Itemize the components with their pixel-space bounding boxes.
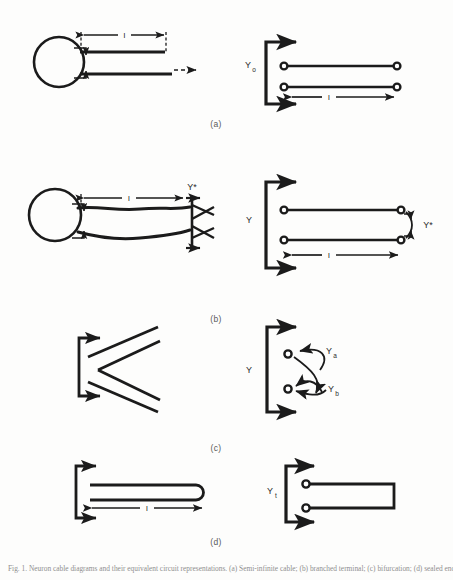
terminal-node-lower-left-a (281, 84, 288, 91)
soma-circle-b (29, 189, 81, 241)
admittance-label-a: Y (245, 60, 251, 70)
port-bracket-d (286, 466, 303, 522)
length-label-a: l (124, 31, 126, 40)
length-label-d: l (146, 504, 148, 513)
panel-label-b: (b) (210, 314, 222, 324)
branch-upper-inner-c (98, 341, 160, 370)
panel-c: Y Y a Y b (c) (79, 327, 339, 453)
panel-b: Y* l Y (29, 182, 433, 324)
length-label-b: l (128, 194, 130, 203)
admittance-label-d: Y (267, 486, 273, 496)
branch-b-sub-c: b (335, 390, 339, 397)
trunk-bracket-d (76, 466, 88, 518)
branch-lower-inner-c (98, 370, 160, 400)
terminal-node-upper-right-b (398, 207, 405, 214)
panel-d: l Y t (d) (76, 466, 394, 547)
panel-b-drawing: Y* l (29, 182, 214, 248)
panel-label-d: (d) (210, 537, 222, 547)
admittance-sub-d: t (275, 492, 277, 499)
panel-d-drawing: l (76, 466, 204, 518)
soma-circle-a (34, 37, 84, 87)
panel-c-drawing (79, 327, 160, 412)
panel-label-c: (c) (210, 443, 221, 453)
panel-b-circuit: Y Y* l (246, 182, 433, 268)
port-bracket-b (266, 182, 285, 268)
terminal-node-lower-right-b (398, 237, 405, 244)
panel-c-circuit: Y Y a Y b (246, 327, 339, 412)
terminal-node-upper-c (284, 350, 291, 357)
panel-a: l Y o l (34, 31, 400, 129)
length-label-circ-a: l (328, 93, 330, 102)
admittance-label-b: Y (246, 215, 252, 225)
cable-sealed-end-d (90, 485, 204, 500)
terminal-node-lower-right-a (394, 84, 401, 91)
figure-container: l Y o l (0, 0, 453, 580)
terminal-node-upper-right-a (394, 63, 401, 70)
figure-caption: Fig. 1. Neuron cable diagrams and their … (8, 564, 453, 573)
figure-caption-strip: Fig. 1. Neuron cable diagrams and their … (0, 564, 453, 580)
figure-svg: l Y o l (0, 0, 453, 580)
admittance-label-c: Y (246, 365, 252, 375)
branch-upper-outer-c (88, 327, 158, 357)
branch-b-label-c: Y (328, 384, 334, 394)
terminal-node-upper-left-b (281, 207, 288, 214)
short-circuit-loop-d (308, 484, 394, 508)
branch-a-sub-c: a (333, 352, 337, 359)
terminal-admittance-label-circ-b: Y* (423, 220, 433, 230)
port-bracket-a (266, 42, 285, 104)
panel-a-drawing: l (34, 31, 196, 87)
terminal-node-lower-left-b (281, 237, 288, 244)
terminal-node-lower-c (284, 385, 291, 392)
admittance-sub-a: o (252, 66, 256, 73)
panel-d-circuit: Y t (267, 466, 394, 522)
cable-lower-wall-b (78, 230, 190, 239)
branch-a-arrow-c (300, 350, 324, 370)
branch-a-cross-c (294, 357, 318, 393)
terminal-admittance-label-b: Y* (187, 182, 197, 192)
panel-label-a: (a) (210, 119, 222, 129)
trunk-bracket-c (79, 338, 93, 396)
branch-a-label-c: Y (326, 346, 332, 356)
panel-a-circuit: Y o l (245, 42, 400, 104)
terminal-node-upper-d (302, 480, 309, 487)
length-label-circ-b: l (328, 251, 330, 260)
cable-upper-wall-b (78, 207, 190, 209)
terminal-node-upper-left-a (281, 63, 288, 70)
port-bracket-c (267, 327, 285, 412)
terminal-node-lower-d (302, 504, 309, 511)
